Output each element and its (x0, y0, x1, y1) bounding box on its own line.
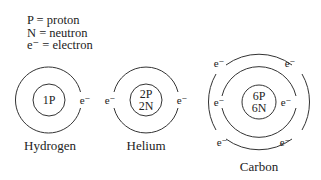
hydrogen-name: Hydrogen (24, 138, 76, 153)
carbon-electron-outer-tl: e⁻ (214, 57, 225, 69)
carbon-electron-inner-left: e⁻ (214, 96, 225, 108)
carbon-electron-outer-bl: e⁻ (217, 136, 228, 148)
carbon-electron-outer-tr: e⁻ (285, 57, 296, 69)
carbon-electron-outer-br: e⁻ (280, 136, 291, 148)
carbon-outer-shell-top (226, 54, 292, 65)
carbon-outer-shell-right (302, 74, 310, 130)
carbon-nucleus-neutrons: 6N (252, 101, 267, 115)
atom-hydrogen: 1P e⁻ Hydrogen (15, 67, 90, 153)
hydrogen-electron: e⁻ (80, 94, 91, 106)
carbon-name: Carbon (240, 159, 279, 174)
helium-name: Helium (127, 138, 166, 153)
atom-helium: 2P 2N e⁻ e⁻ Helium (105, 67, 188, 153)
helium-electron-right: e⁻ (177, 94, 188, 106)
helium-electron-left: e⁻ (105, 94, 116, 106)
carbon-electron-inner-right: e⁻ (281, 96, 292, 108)
atom-carbon: 6P 6N e⁻ e⁻ e⁻ e⁻ e⁻ e⁻ Carbon (208, 54, 309, 174)
helium-nucleus-neutrons: 2N (139, 99, 154, 113)
hydrogen-nucleus-label: 1P (43, 93, 56, 107)
atom-diagram: 1P e⁻ Hydrogen 2P 2N e⁻ e⁻ Helium 6P 6N … (0, 0, 321, 180)
